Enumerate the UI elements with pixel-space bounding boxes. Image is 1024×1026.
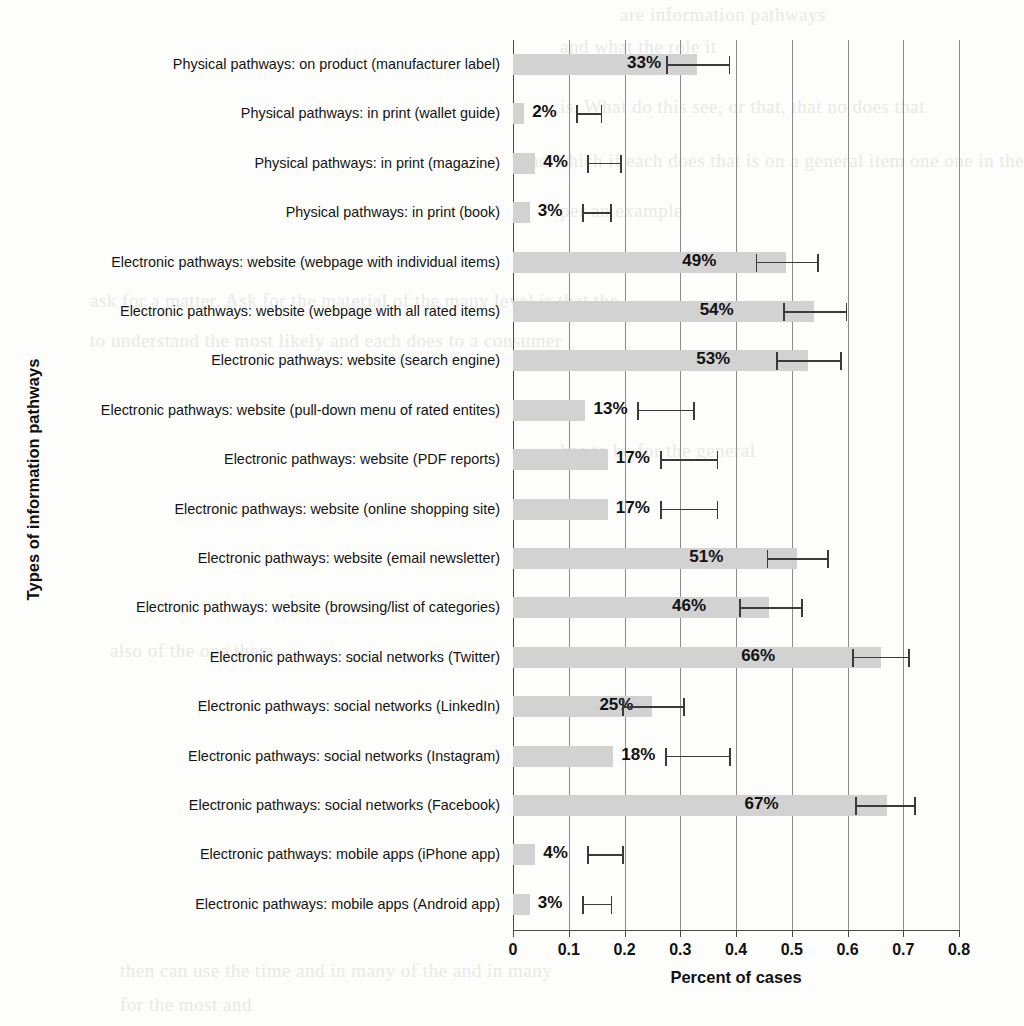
error-bar-line — [756, 262, 819, 264]
bar — [513, 795, 887, 816]
category-label: Electronic pathways: website (email news… — [100, 550, 500, 567]
x-axis-tick-label: 0.5 — [769, 941, 815, 959]
category-label: Physical pathways: on product (manufactu… — [100, 56, 500, 73]
bar — [513, 844, 535, 865]
bar-value-label: 17% — [616, 447, 650, 468]
error-bar-cap-high — [683, 698, 685, 716]
bar-row: 33% — [513, 40, 959, 89]
error-bar-line — [852, 657, 910, 659]
bar — [513, 746, 613, 767]
bar-row: 13% — [513, 386, 959, 435]
bar-row: 54% — [513, 287, 959, 336]
category-label: Electronic pathways: website (pull-down … — [100, 402, 500, 419]
bar-value-label: 25% — [599, 694, 633, 715]
bar-value-label: 51% — [689, 546, 723, 567]
error-bar-cap-high — [729, 748, 731, 766]
scan-artifact: to understand the most likely and each d… — [90, 330, 562, 352]
bar-row: 49% — [513, 238, 959, 287]
category-label: Physical pathways: in print (magazine) — [100, 155, 500, 172]
bar-row: 2% — [513, 89, 959, 138]
error-bar-cap-high — [693, 402, 695, 420]
error-bar-cap-high — [610, 204, 612, 222]
category-label: Electronic pathways: mobile apps (iPhone… — [100, 846, 500, 863]
error-bar-cap-high — [611, 896, 613, 914]
x-axis-tick — [513, 930, 514, 937]
bar-row: 3% — [513, 188, 959, 237]
error-bar-line — [582, 904, 613, 906]
x-axis-tick-label: 0.4 — [713, 941, 759, 959]
error-bar-cap-high — [846, 303, 848, 321]
error-bar-cap-low — [576, 105, 578, 123]
category-label: Physical pathways: in print (book) — [100, 204, 500, 221]
error-bar-cap-low — [622, 698, 624, 716]
error-bar-cap-high — [717, 501, 719, 519]
x-axis-tick — [903, 930, 904, 937]
bar-value-label: 17% — [616, 497, 650, 518]
x-axis-tick-label: 0.3 — [657, 941, 703, 959]
error-bar-line — [622, 706, 685, 708]
bar — [513, 499, 608, 520]
bar-row: 17% — [513, 435, 959, 484]
x-axis-tick-label: 0.2 — [602, 941, 648, 959]
bar-row: 17% — [513, 485, 959, 534]
x-axis-tick-label: 0.6 — [825, 941, 871, 959]
bar — [513, 400, 585, 421]
error-bar-line — [666, 64, 730, 66]
y-axis-title: Types of information pathways — [24, 330, 43, 630]
bar — [513, 301, 814, 322]
bar-row: 66% — [513, 633, 959, 682]
error-bar-cap-low — [665, 748, 667, 766]
x-axis-tick-label: 0.7 — [880, 941, 926, 959]
bar — [513, 103, 524, 124]
error-bar-cap-high — [817, 254, 819, 272]
bar-value-label: 13% — [593, 398, 627, 419]
error-bar-cap-low — [852, 649, 854, 667]
error-bar-cap-high — [801, 599, 803, 617]
error-bar-line — [576, 113, 602, 115]
bar-value-label: 49% — [682, 250, 716, 271]
bar-row: 53% — [513, 336, 959, 385]
category-label: Electronic pathways: mobile apps (Androi… — [100, 896, 500, 913]
x-axis-tick-label: 0.1 — [546, 941, 592, 959]
error-bar-line — [582, 212, 612, 214]
error-bar-line — [587, 163, 622, 165]
error-bar-cap-low — [776, 352, 778, 370]
bar-value-label: 3% — [538, 892, 563, 913]
bar-value-label: 53% — [696, 348, 730, 369]
category-label: Electronic pathways: social networks (In… — [100, 748, 500, 765]
error-bar-cap-low — [660, 451, 662, 469]
bar-value-label: 33% — [627, 52, 661, 73]
error-bar-cap-high — [601, 105, 603, 123]
bar-row: 67% — [513, 781, 959, 830]
bar-value-label: 18% — [621, 744, 655, 765]
bar-row: 25% — [513, 682, 959, 731]
bar-row: 4% — [513, 830, 959, 879]
error-bar-cap-low — [666, 56, 668, 74]
error-bar-cap-high — [729, 56, 731, 74]
category-label: Electronic pathways: website (search eng… — [100, 352, 500, 369]
category-label: Physical pathways: in print (wallet guid… — [100, 105, 500, 122]
error-bar-cap-low — [660, 501, 662, 519]
error-bar-cap-high — [908, 649, 910, 667]
category-label: Electronic pathways: website (webpage wi… — [100, 303, 500, 320]
bar-row: 4% — [513, 139, 959, 188]
plot-area: 33%2%4%3%49%54%53%13%17%17%51%46%66%25%1… — [513, 40, 959, 930]
bar-value-label: 4% — [543, 151, 568, 172]
error-bar-cap-low — [587, 846, 589, 864]
x-axis-title: Percent of cases — [513, 968, 959, 987]
error-bar-cap-low — [756, 254, 758, 272]
error-bar-line — [660, 509, 719, 511]
x-axis-tick-label: 0.8 — [936, 941, 982, 959]
error-bar-cap-high — [840, 352, 842, 370]
error-bar-cap-low — [637, 402, 639, 420]
bar-value-label: 2% — [532, 101, 557, 122]
x-axis-tick — [792, 930, 793, 937]
bar-value-label: 4% — [543, 842, 568, 863]
bar — [513, 202, 530, 223]
error-bar-cap-low — [739, 599, 741, 617]
bar-value-label: 46% — [672, 595, 706, 616]
gridline — [959, 40, 960, 930]
error-bar-line — [739, 607, 803, 609]
bar-value-label: 54% — [700, 299, 734, 320]
error-bar-cap-low — [582, 896, 584, 914]
